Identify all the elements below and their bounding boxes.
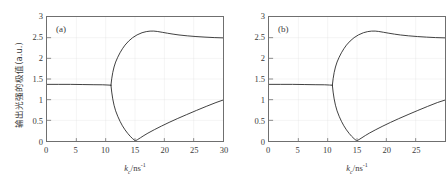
plot-area-panel-b xyxy=(268,16,446,142)
x-tick-label: 10 xyxy=(323,146,332,155)
x-axis-unit: /ns xyxy=(131,163,141,173)
y-tick-label: 3 xyxy=(39,12,43,21)
x-tick-label: 10 xyxy=(101,146,110,155)
y-tick-label: 1 xyxy=(39,96,43,105)
x-tick-label: 20 xyxy=(160,146,169,155)
x-tick-label: 5 xyxy=(74,146,78,155)
y-tick-labels-panel-a: 3 2.5 2 1.5 1 0.5 0 xyxy=(18,16,43,142)
tickmarks-panel-a xyxy=(47,17,223,141)
y-tick-label: 0.5 xyxy=(254,117,265,126)
x-tick-label: 5 xyxy=(296,146,300,155)
x-tick-label: 0 xyxy=(44,146,48,155)
y-tick-label: 0.5 xyxy=(32,117,43,126)
x-tick-label: 15 xyxy=(131,146,140,155)
panel-b: 3 2.5 2 1.5 1 0.5 0 xyxy=(228,0,432,182)
y-tick-label: 0 xyxy=(261,138,265,147)
x-axis-unit: /ns xyxy=(353,163,363,173)
y-tick-label: 2.5 xyxy=(32,33,43,42)
panel-tag-b: (b) xyxy=(278,24,289,34)
x-axis-label-panel-a: kc/ns-1 xyxy=(46,162,224,175)
y-tick-label: 1.5 xyxy=(32,75,43,84)
x-tick-label: 20 xyxy=(382,146,391,155)
y-tick-labels-panel-b: 3 2.5 2 1.5 1 0.5 0 xyxy=(240,16,265,142)
x-axis-exponent: -1 xyxy=(141,162,146,168)
y-tick-label: 2.5 xyxy=(254,33,265,42)
x-tick-label: 25 xyxy=(190,146,199,155)
panel-a: 输出光强的极值(a.u.) 3 2.5 2 1.5 1 0.5 0 xyxy=(0,0,228,182)
x-tick-labels-panel-b: 0 5 10 15 20 25 xyxy=(268,146,446,158)
y-tick-label: 1.5 xyxy=(254,75,265,84)
x-axis-label-panel-b: kc/ns-1 xyxy=(268,162,446,175)
x-tick-label: 25 xyxy=(412,146,421,155)
x-tick-label: 15 xyxy=(353,146,362,155)
y-tick-label: 0 xyxy=(39,138,43,147)
y-tick-label: 3 xyxy=(261,12,265,21)
tickmarks-panel-b xyxy=(269,17,445,141)
y-tick-label: 2 xyxy=(261,54,265,63)
panel-tag-a: (a) xyxy=(56,24,66,34)
x-tick-label: 30 xyxy=(220,146,229,155)
plot-area-panel-a xyxy=(46,16,224,142)
y-tick-label: 2 xyxy=(39,54,43,63)
x-tick-label: 0 xyxy=(266,146,270,155)
y-tick-label: 1 xyxy=(261,96,265,105)
x-tick-labels-panel-a: 0 5 10 15 20 25 30 xyxy=(46,146,224,158)
x-axis-exponent: -1 xyxy=(363,162,368,168)
